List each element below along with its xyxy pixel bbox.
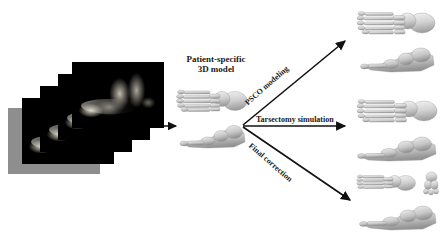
tarsectomy-foot-dorsal (356, 93, 438, 129)
ct-slice (72, 62, 164, 128)
final-foot-lateral (358, 199, 440, 233)
patient-specific-model-caption: Patient-specific 3D model (168, 54, 264, 75)
tarsectomy-foot-lateral (356, 130, 440, 164)
workflow-figure: Patient-specific 3D model (0, 0, 444, 243)
final-foot-anterior (421, 170, 442, 196)
arrow-label-tarsectomy: Tarsectomy simulation (256, 115, 334, 124)
model-foot-lateral (178, 120, 248, 152)
arrow-label-final: Final correction (247, 141, 294, 184)
ct-slice-stack (8, 58, 164, 174)
model-foot-dorsal (176, 84, 248, 118)
arrow-final (243, 127, 350, 200)
final-foot-dorsal (356, 170, 416, 196)
psco-foot-lateral (358, 42, 438, 76)
psco-foot-dorsal (356, 5, 436, 41)
ct-foot-render (76, 68, 160, 124)
